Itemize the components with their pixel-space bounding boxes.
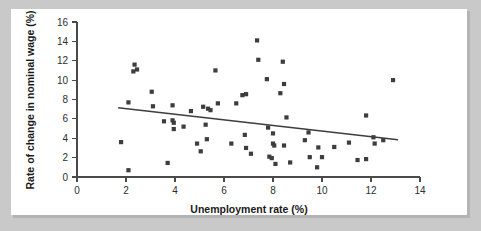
data-point bbox=[131, 69, 135, 73]
data-point bbox=[364, 157, 368, 161]
scatter-plot: 024681012140246810121416 Unemployment ra… bbox=[0, 0, 481, 231]
data-point bbox=[208, 108, 212, 112]
y-axis-title: Rate of change in nominal wage (%) bbox=[24, 10, 36, 189]
data-point bbox=[278, 91, 282, 95]
data-point bbox=[119, 140, 123, 144]
data-point bbox=[255, 38, 259, 42]
data-point bbox=[204, 123, 208, 127]
data-point bbox=[284, 115, 288, 119]
data-point bbox=[170, 103, 174, 107]
data-point bbox=[181, 125, 185, 129]
y-tick-label: 0 bbox=[62, 172, 68, 183]
y-tick-label: 16 bbox=[57, 17, 69, 28]
data-point bbox=[172, 127, 176, 131]
data-point bbox=[271, 131, 275, 135]
data-point bbox=[282, 143, 286, 147]
data-point bbox=[166, 161, 170, 165]
data-point bbox=[272, 143, 276, 147]
x-tick-label: 10 bbox=[316, 185, 328, 196]
data-point bbox=[391, 78, 395, 82]
x-tick-label: 8 bbox=[270, 185, 276, 196]
axes-group bbox=[77, 22, 420, 177]
data-point bbox=[355, 158, 359, 162]
data-point bbox=[195, 141, 199, 145]
x-tick-label: 4 bbox=[172, 185, 178, 196]
trend-line bbox=[118, 108, 398, 140]
x-tick-label: 2 bbox=[123, 185, 129, 196]
data-point bbox=[244, 92, 248, 96]
data-point bbox=[199, 149, 203, 153]
data-point bbox=[162, 119, 166, 123]
data-point bbox=[189, 109, 193, 113]
data-point bbox=[243, 133, 247, 137]
data-point bbox=[373, 141, 377, 145]
data-point bbox=[244, 146, 248, 150]
data-point bbox=[213, 68, 217, 72]
data-point bbox=[151, 104, 155, 108]
data-point bbox=[201, 105, 205, 109]
data-point bbox=[216, 101, 220, 105]
x-axis-title: Unemployment rate (%) bbox=[190, 203, 307, 215]
y-tick-label: 14 bbox=[57, 36, 69, 47]
trendline-group bbox=[118, 108, 398, 140]
x-tick-label: 14 bbox=[414, 185, 426, 196]
y-tick-label: 6 bbox=[62, 113, 68, 124]
data-point bbox=[229, 141, 233, 145]
data-point bbox=[270, 156, 274, 160]
data-point bbox=[265, 77, 269, 81]
y-tick-label: 2 bbox=[62, 152, 68, 163]
data-point bbox=[288, 160, 292, 164]
data-point bbox=[332, 145, 336, 149]
x-tick-label: 0 bbox=[74, 185, 80, 196]
y-tick-label: 12 bbox=[57, 55, 69, 66]
data-point bbox=[315, 165, 319, 169]
data-point bbox=[132, 63, 136, 67]
data-point bbox=[249, 152, 253, 156]
figure-root: 024681012140246810121416 Unemployment ra… bbox=[0, 0, 481, 231]
data-point bbox=[281, 60, 285, 64]
data-point bbox=[303, 138, 307, 142]
data-point bbox=[282, 82, 286, 86]
x-tick-label: 12 bbox=[365, 185, 377, 196]
data-point bbox=[320, 155, 324, 159]
data-point bbox=[205, 137, 209, 141]
data-point bbox=[126, 168, 130, 172]
data-point bbox=[256, 58, 260, 62]
data-point bbox=[126, 100, 130, 104]
data-point bbox=[347, 141, 351, 145]
data-point bbox=[273, 162, 277, 166]
data-point bbox=[234, 101, 238, 105]
x-tick-label: 6 bbox=[221, 185, 227, 196]
y-tick-label: 10 bbox=[57, 75, 69, 86]
tick-labels-group: 024681012140246810121416 bbox=[57, 17, 426, 196]
data-points-group bbox=[119, 38, 395, 172]
data-point bbox=[308, 155, 312, 159]
data-point bbox=[172, 121, 176, 125]
data-point bbox=[364, 113, 368, 117]
data-point bbox=[135, 67, 139, 71]
data-point bbox=[240, 93, 244, 97]
data-point bbox=[316, 145, 320, 149]
data-point bbox=[150, 90, 154, 94]
data-point bbox=[306, 130, 310, 134]
data-point bbox=[266, 125, 270, 129]
y-tick-label: 4 bbox=[62, 133, 68, 144]
y-tick-label: 8 bbox=[62, 94, 68, 105]
